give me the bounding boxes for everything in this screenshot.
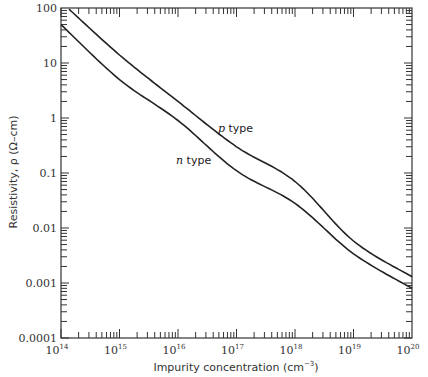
- x-tick-labels: 1014101510161017101810191020: [46, 343, 420, 357]
- y-axis-ticks: [61, 11, 412, 338]
- x-tick-label: 1019: [338, 343, 361, 357]
- resistivity-chart: 1001010.10.010.0010.0001 101410151016101…: [0, 0, 428, 377]
- y-axis-label: Resistivity, ρ (Ω–cm): [7, 116, 20, 229]
- x-axis-label: Impurity concentration (cm−3): [153, 360, 318, 374]
- n-type-label: n type: [176, 154, 211, 167]
- x-tick-label: 1020: [397, 343, 420, 357]
- y-tick-label: 0.01: [33, 222, 58, 235]
- y-tick-labels: 1001010.10.010.0010.0001: [19, 2, 58, 345]
- x-tick-label: 1016: [163, 343, 186, 357]
- x-tick-label: 1014: [46, 343, 69, 357]
- x-tick-label: 1018: [280, 343, 303, 357]
- x-tick-label: 1017: [221, 343, 244, 357]
- y-tick-label: 0.001: [26, 277, 58, 290]
- y-tick-label: 1: [50, 112, 57, 125]
- x-tick-label: 1015: [104, 343, 127, 357]
- y-tick-label: 0.1: [40, 167, 58, 180]
- p-type-label: p type: [218, 122, 253, 135]
- n-type-curve: [61, 25, 412, 289]
- x-axis-ticks: [61, 8, 409, 338]
- p-type-curve: [69, 9, 412, 277]
- y-tick-label: 100: [36, 2, 57, 15]
- y-tick-label: 10: [43, 57, 57, 70]
- plot-frame: [61, 8, 412, 338]
